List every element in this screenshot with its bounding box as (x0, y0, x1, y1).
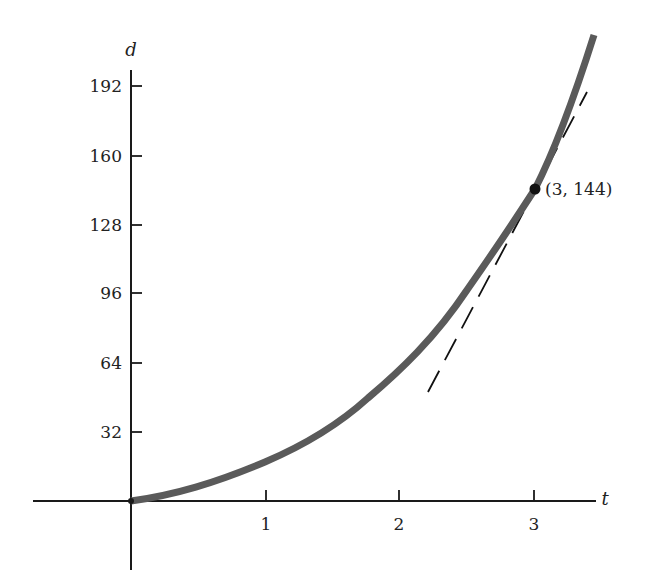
point-marker (530, 184, 541, 195)
x-axis-label: t (601, 488, 609, 509)
x-ticks: 1 2 3 (261, 490, 540, 534)
y-tick-label: 192 (90, 76, 122, 96)
y-tick-label: 160 (90, 146, 122, 166)
curve-d-of-t (131, 35, 594, 501)
y-tick-label: 96 (100, 283, 122, 303)
y-tick-label: 128 (90, 215, 122, 235)
point-label: (3, 144) (545, 179, 612, 199)
x-tick-label: 3 (529, 514, 540, 534)
x-tick-label: 1 (261, 514, 272, 534)
y-tick-label: 64 (100, 353, 122, 373)
y-axis-label: d (125, 39, 137, 60)
tangent-line (428, 92, 587, 392)
origin-point (128, 498, 134, 504)
x-tick-label: 2 (394, 514, 405, 534)
y-ticks: 32 64 96 128 160 192 (90, 76, 142, 442)
plot-area: 1 2 3 32 64 96 128 160 192 d t (3, 144) (0, 0, 648, 588)
y-tick-label: 32 (100, 422, 122, 442)
